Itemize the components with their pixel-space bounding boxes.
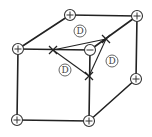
- cube-diagram: D D D: [0, 0, 152, 137]
- label-d-right: D: [106, 55, 118, 67]
- vertex-bottom-front-right: [84, 116, 95, 127]
- label-text: D: [76, 26, 83, 36]
- vertex-top-back-left: [65, 10, 76, 21]
- vertex-mid-back-right: [131, 74, 142, 85]
- label-d-left: D: [59, 64, 71, 76]
- cross-mark-icon: [102, 35, 110, 43]
- edge-left-front-vertical: [17, 49, 18, 120]
- label-d-top: D: [74, 25, 86, 37]
- vertex-bottom-front-left: [12, 115, 23, 126]
- label-text: D: [108, 56, 115, 66]
- edge-bottom-front: [17, 120, 89, 121]
- vertex-top-back-right: [132, 11, 143, 22]
- edge-right-back-vertical: [136, 16, 137, 79]
- label-text: D: [61, 65, 68, 75]
- edge-bottom-right-diagonal: [89, 79, 136, 121]
- vertex-center-minus: [85, 45, 96, 56]
- edge-top-left: [18, 15, 70, 49]
- edge-top-right-diagonal: [90, 16, 137, 50]
- vertex-top-front-left: [13, 44, 24, 55]
- edge-front-right-vertical: [89, 50, 90, 121]
- edge-top-back: [70, 15, 137, 16]
